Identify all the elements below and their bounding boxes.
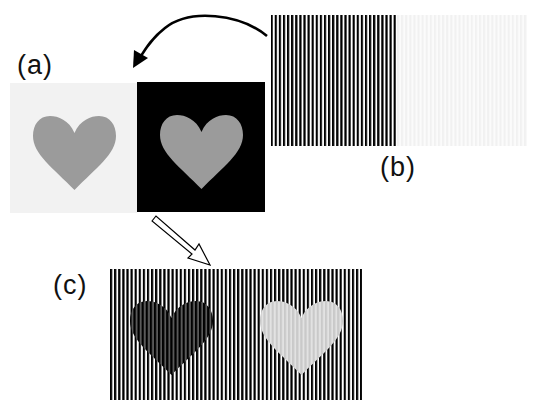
hollow-arrow-icon bbox=[152, 216, 210, 265]
panel-a bbox=[10, 82, 265, 213]
panel-b bbox=[271, 15, 527, 146]
figure-canvas bbox=[0, 0, 537, 412]
curved-arrow-icon bbox=[133, 16, 267, 68]
faint-grating-panel bbox=[397, 15, 527, 146]
panel-c bbox=[110, 269, 362, 400]
grating-panel bbox=[271, 15, 397, 146]
